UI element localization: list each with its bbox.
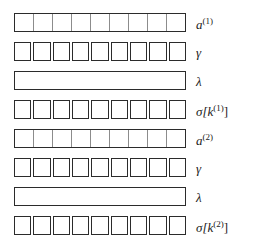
- vector-cell: [167, 130, 185, 147]
- vector-row-squares: [14, 100, 186, 119]
- vector-cell: [53, 100, 70, 119]
- row-label-superscript: (2): [213, 219, 224, 229]
- row-label-base: σ[k: [196, 104, 213, 119]
- vector-cell: [14, 42, 31, 61]
- vector-cell: [91, 42, 108, 61]
- vector-cell: [33, 158, 50, 177]
- row-label: a(1): [196, 17, 253, 31]
- vector-cell: [169, 100, 186, 119]
- vector-cell: [33, 216, 50, 235]
- row-label-base: λ: [196, 74, 202, 89]
- vector-cell: [53, 14, 72, 31]
- vector-row-squares: [14, 42, 186, 61]
- vector-cell: [91, 100, 108, 119]
- vector-cell: [148, 14, 167, 31]
- vector-row-plain: [14, 71, 186, 90]
- vector-cell: [149, 216, 166, 235]
- vector-cell: [167, 14, 185, 31]
- row-label-superscript: (1): [213, 103, 224, 113]
- row-label: λ: [196, 191, 253, 204]
- vector-row-squares: [14, 216, 186, 235]
- vector-cell: [91, 14, 110, 31]
- row-label-base: γ: [196, 45, 201, 60]
- vector-cell: [53, 42, 70, 61]
- vector-cell: [111, 100, 128, 119]
- vector-cell: [15, 130, 34, 147]
- row-label: a(2): [196, 133, 253, 147]
- row-label: σ[k(1)]: [196, 104, 253, 118]
- vector-cell: [33, 100, 50, 119]
- vector-cell: [34, 130, 53, 147]
- vector-cell: [129, 14, 148, 31]
- vector-cell: [91, 130, 110, 147]
- vector-cell: [34, 14, 53, 31]
- row-label: γ: [196, 46, 253, 59]
- vector-cell: [53, 216, 70, 235]
- vector-cell: [72, 216, 89, 235]
- vector-cell: [129, 130, 148, 147]
- vector-cell: [91, 216, 108, 235]
- vector-cell: [72, 100, 89, 119]
- vector-cell: [72, 14, 91, 31]
- row-label-superscript: (1): [203, 16, 214, 26]
- row-label-base: σ[k: [196, 220, 213, 235]
- vector-cell: [149, 42, 166, 61]
- row-label: γ: [196, 162, 253, 175]
- vector-cell: [149, 158, 166, 177]
- vector-cell: [111, 42, 128, 61]
- vector-cell: [130, 42, 147, 61]
- row-label: σ[k(2)]: [196, 220, 253, 234]
- vector-cell: [14, 100, 31, 119]
- vector-cell: [169, 216, 186, 235]
- row-label-base: λ: [196, 190, 202, 205]
- vector-cell: [15, 14, 34, 31]
- vector-cell: [130, 216, 147, 235]
- vector-cell: [53, 158, 70, 177]
- row-label-suffix: ]: [224, 220, 228, 235]
- vector-cell: [14, 216, 31, 235]
- vector-cell: [53, 130, 72, 147]
- vector-cell: [110, 130, 129, 147]
- row-label-base: γ: [196, 161, 201, 176]
- vector-row-plain: [14, 187, 186, 206]
- vector-row-segmented: [14, 129, 186, 148]
- vector-cell: [111, 158, 128, 177]
- vector-cell: [72, 42, 89, 61]
- vector-row-squares: [14, 158, 186, 177]
- vector-cell: [91, 158, 108, 177]
- vector-cell: [130, 158, 147, 177]
- row-label: λ: [196, 75, 253, 88]
- vector-block-diagram: a(1)γλσ[k(1)]a(2)γλσ[k(2)]: [0, 0, 253, 248]
- vector-cell: [111, 216, 128, 235]
- row-label-suffix: ]: [224, 104, 228, 119]
- vector-cell: [14, 158, 31, 177]
- vector-cell: [72, 130, 91, 147]
- vector-cell: [169, 42, 186, 61]
- vector-cell: [130, 100, 147, 119]
- vector-cell: [149, 100, 166, 119]
- vector-cell: [33, 42, 50, 61]
- vector-cell: [110, 14, 129, 31]
- vector-cell: [169, 158, 186, 177]
- vector-row-segmented: [14, 13, 186, 32]
- row-label-superscript: (2): [203, 132, 214, 142]
- vector-cell: [148, 130, 167, 147]
- vector-cell: [72, 158, 89, 177]
